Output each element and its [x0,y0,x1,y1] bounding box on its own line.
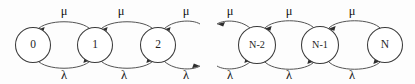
lambda-label-4: λ [227,68,233,82]
diagram-canvas: 0 1 2 N-2 N-1 N μ μ μ μ μ μ λ λ [0,0,415,84]
lambda-label-6: λ [349,68,355,82]
node-n-minus-2-label: N-2 [249,39,265,50]
node-n-minus-1-label: N-1 [312,39,328,50]
node-n[interactable]: N [368,28,403,63]
node-0-label: 0 [30,38,36,50]
mu-arc-1-to-0 [37,22,91,30]
node-2[interactable]: 2 [141,28,176,63]
state-diagram-svg: 0 1 2 N-2 N-1 N μ μ μ μ μ μ λ λ [0,0,415,84]
node-1-label: 1 [92,38,98,50]
mu-arc-2-to-1 [100,22,154,30]
node-2-label: 2 [155,38,161,50]
node-n-label: N [381,38,390,50]
mu-label-4: μ [227,4,234,18]
mu-label-5: μ [286,4,293,18]
mu-label-1: μ [61,4,68,18]
node-n-minus-2[interactable]: N-2 [239,27,276,64]
node-n-minus-1[interactable]: N-1 [302,27,339,64]
mu-label-3: μ [183,4,190,18]
mu-label-2: μ [118,4,125,18]
mu-arc-N1-to-N2 [264,21,315,29]
mu-arc-N-to-N1 [328,21,381,29]
node-1[interactable]: 1 [78,28,113,63]
mu-label-6: μ [349,4,356,18]
lambda-label-3: λ [183,68,189,82]
node-0[interactable]: 0 [16,28,51,63]
lambda-label-1: λ [61,68,67,82]
lambda-label-5: λ [286,68,292,82]
lambda-label-2: λ [121,68,127,82]
